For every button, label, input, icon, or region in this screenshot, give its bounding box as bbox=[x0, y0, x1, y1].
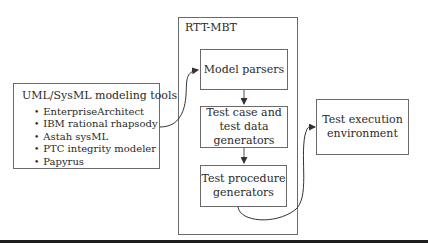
connector-arrows bbox=[0, 0, 428, 246]
arrow-testproc-to-exec bbox=[238, 127, 315, 220]
arrow-tools-to-parsers bbox=[160, 70, 198, 127]
bottom-rule bbox=[0, 240, 428, 243]
